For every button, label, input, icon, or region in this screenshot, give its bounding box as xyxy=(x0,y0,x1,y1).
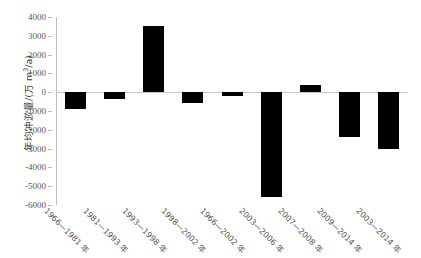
chart-figure: 年均冲淤量/(万 m3/a) 40003000200010000-1000-20… xyxy=(0,0,421,258)
y-axis-tick-mark xyxy=(48,73,52,74)
y-axis-tick-mark xyxy=(48,130,52,131)
bar xyxy=(339,92,360,137)
y-axis-tick-label: 1000 xyxy=(28,68,46,78)
bar xyxy=(222,92,243,96)
y-axis-line xyxy=(56,17,57,205)
y-axis-tick-label: -4000 xyxy=(25,162,46,172)
bar xyxy=(104,92,125,99)
y-axis-tick-label: -6000 xyxy=(25,200,46,210)
y-axis-tick-mark xyxy=(48,17,52,18)
bar xyxy=(143,26,164,92)
plot-area xyxy=(56,17,408,205)
y-axis-tick-mark xyxy=(48,55,52,56)
bar xyxy=(182,92,203,102)
y-axis-tick-mark xyxy=(48,92,52,93)
y-axis-tick-mark xyxy=(48,111,52,112)
y-axis-tick-label: 3000 xyxy=(28,31,46,41)
bar xyxy=(261,92,282,197)
y-axis-tick-mark xyxy=(48,186,52,187)
y-axis-tick-mark xyxy=(48,36,52,37)
bar xyxy=(378,92,399,148)
x-axis-tick-labels: 1966—1981 年1981—1993 年1993—1998 年1998—20… xyxy=(56,205,408,258)
bar xyxy=(65,92,86,109)
y-axis-tick-label: -2000 xyxy=(25,125,46,135)
y-axis-tick-label: -5000 xyxy=(25,181,46,191)
bar xyxy=(300,85,321,93)
y-axis-tick-mark xyxy=(48,149,52,150)
y-axis-tick-label: 4000 xyxy=(28,12,46,22)
y-axis-tick-label: 0 xyxy=(42,87,47,97)
y-axis-tick-label: -3000 xyxy=(25,144,46,154)
y-axis-tick-label: -1000 xyxy=(25,106,46,116)
y-axis-tick-labels: 40003000200010000-1000-2000-3000-4000-50… xyxy=(0,17,52,205)
y-axis-tick-label: 2000 xyxy=(28,50,46,60)
y-axis-tick-mark xyxy=(48,167,52,168)
